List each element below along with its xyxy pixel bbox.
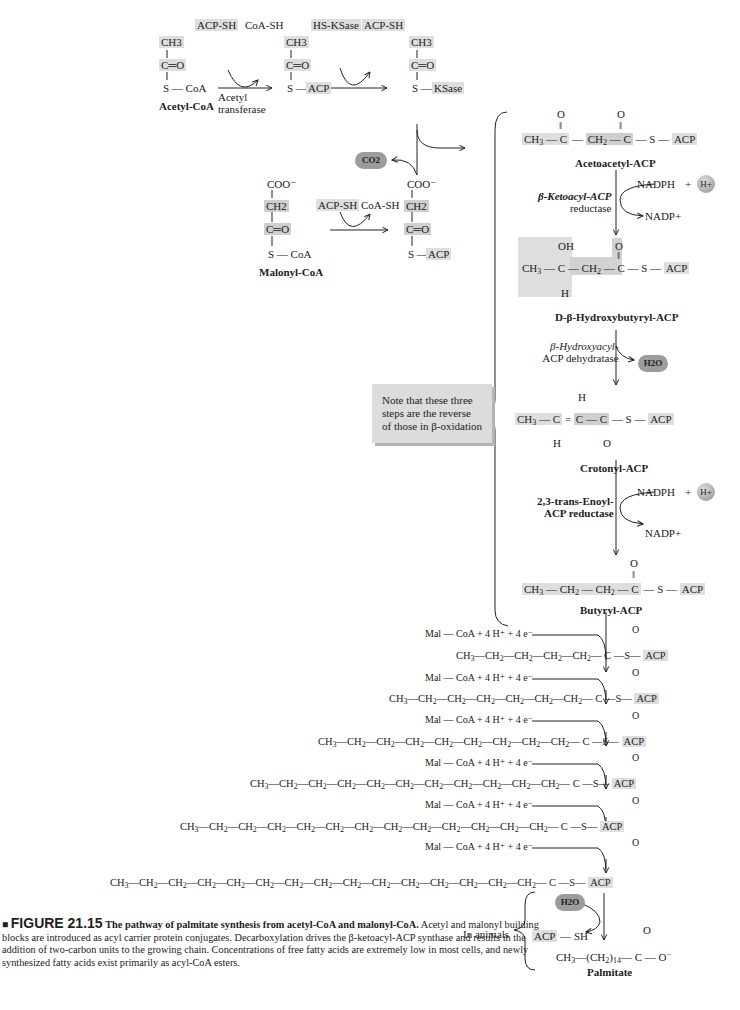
malonyl-reagent: Mal — CoA + 4 H⁺ + 4 e⁻ bbox=[425, 799, 533, 810]
chain-c8: CH3—CH2—CH2—CH2—CH2—CH2—CH2— C —S— ACP bbox=[389, 693, 659, 706]
plus-sign: + bbox=[685, 486, 691, 498]
malonyl-reagent: Mal — CoA + 4 H⁺ + 4 e⁻ bbox=[425, 628, 533, 639]
step2-in: HS-KSase bbox=[311, 19, 361, 31]
malonyl-acp-ch2: CH2 bbox=[404, 200, 429, 212]
oh-label: OH bbox=[558, 240, 574, 252]
acetyl-ksase-ch3: CH3 bbox=[409, 36, 434, 48]
proton-icon: H+ bbox=[697, 175, 715, 193]
acetyl-ksase-s: S — bbox=[412, 82, 432, 94]
crotonyl-formula: CH3 — C = C — C — S — ACP bbox=[515, 413, 674, 427]
butyryl-label: Butyryl-ACP bbox=[580, 604, 642, 616]
acetyl-coa-co: C═O bbox=[159, 59, 186, 71]
figure-caption: ■ FIGURE 21.15 The pathway of palmitate … bbox=[2, 917, 562, 969]
acetoacetyl-formula: CH3 — C — CH2 — C — S — ACP bbox=[522, 133, 697, 147]
o-label: O bbox=[632, 752, 639, 763]
malonyl-acp-s: S — bbox=[408, 248, 428, 260]
palmitate-label: Palmitate bbox=[587, 966, 632, 978]
malonyl-coa-coo: COO⁻ bbox=[267, 178, 296, 191]
acetyl-transferase-label: Acetyl transferase bbox=[218, 91, 266, 115]
step2-out: ACP-SH bbox=[362, 19, 405, 31]
nadph-label: NADPH bbox=[637, 486, 675, 498]
water-molecule-icon: H2O bbox=[638, 355, 668, 372]
enoyl-reductase-label: 2,3-trans-Enoyl- ACP reductase bbox=[537, 495, 614, 519]
o-label: O bbox=[632, 837, 639, 848]
acetyl-ksase-co: C═O bbox=[409, 59, 436, 71]
palmitate-formula: CH3—(CH2)14— C — O− bbox=[556, 950, 671, 965]
crotonyl-label: Crotonyl-ACP bbox=[580, 462, 648, 474]
h-label: H bbox=[553, 437, 561, 449]
figure-title: The pathway of palmitate synthesis from … bbox=[105, 919, 419, 930]
figure-number: FIGURE 21.15 bbox=[11, 915, 103, 931]
bullet-icon: ■ bbox=[2, 919, 11, 930]
plus-sign: + bbox=[685, 178, 691, 190]
malonyl-coa-label: Malonyl-CoA bbox=[259, 266, 323, 278]
acetyl-acp-s: S — bbox=[287, 82, 307, 94]
butyryl-formula: CH3 — CH2 — CH2 — C — S — ACP bbox=[522, 583, 705, 597]
malonyl-reagent: Mal — CoA + 4 H⁺ + 4 e⁻ bbox=[425, 672, 533, 683]
double-bond: ‖ bbox=[632, 568, 635, 580]
hydroxybutyryl-label: D-β-Hydroxybutyryl-ACP bbox=[555, 311, 679, 323]
acetyl-coa-s: S — CoA bbox=[163, 82, 206, 94]
o-label: O bbox=[632, 624, 639, 635]
double-bond: ‖ bbox=[559, 119, 562, 131]
acetyl-coa-ch3: CH3 bbox=[159, 36, 184, 48]
nadp-label: NADP+ bbox=[645, 210, 681, 222]
chain-c10: CH3—CH2—CH2—CH2—CH2—CH2—CH2—CH2—CH2— C —… bbox=[318, 736, 646, 749]
malonyl-acp-coo: COO⁻ bbox=[407, 178, 436, 191]
nadp-label: NADP+ bbox=[645, 527, 681, 539]
double-bond: ‖ bbox=[617, 249, 620, 261]
proton-icon: H+ bbox=[697, 483, 715, 501]
o-label: O bbox=[643, 924, 651, 936]
o-label: O bbox=[632, 710, 639, 721]
malonyl-acp-co: C═O bbox=[404, 223, 431, 235]
malonyl-coa-co: C═O bbox=[264, 223, 291, 235]
malonyl-reagent: Mal — CoA + 4 H⁺ + 4 e⁻ bbox=[425, 757, 533, 768]
malonyl-reagent: Mal — CoA + 4 H⁺ + 4 e⁻ bbox=[425, 714, 533, 725]
acetyl-ksase-ksase: KSase bbox=[432, 82, 464, 94]
malonyl-coa-s: S — CoA bbox=[268, 248, 311, 260]
o-label: O bbox=[632, 667, 639, 678]
acetyl-acp-ch3: CH3 bbox=[284, 36, 309, 48]
chain-c6: CH3—CH2—CH2—CH2—CH2— C —S— ACP bbox=[456, 650, 668, 663]
step1-out: CoA-SH bbox=[245, 19, 284, 31]
acetyl-acp-co: C═O bbox=[284, 59, 311, 71]
water-molecule-icon: H2O bbox=[555, 894, 585, 911]
h-label: H bbox=[578, 391, 586, 403]
step3-out: CoA-SH bbox=[361, 199, 400, 211]
step1-in: ACP-SH bbox=[195, 19, 238, 31]
acetyl-acp-acp: ACP bbox=[306, 82, 331, 94]
chain-c16: CH3—CH2—CH2—CH2—CH2—CH2—CH2—CH2—CH2—CH2—… bbox=[110, 877, 613, 890]
dehydratase-label: β-Hydroxyacyl- ACP dehydratase bbox=[542, 340, 619, 364]
ketoacyl-reductase-label: β-Ketoacyl-ACP reductase bbox=[538, 190, 611, 214]
chain-c12: CH3—CH2—CH2—CH2—CH2—CH2—CH2—CH2—CH2—CH2—… bbox=[250, 778, 636, 791]
acetyl-coa-label: Acetyl-CoA bbox=[159, 100, 214, 112]
chain-c14: CH3—CH2—CH2—CH2—CH2—CH2—CH2—CH2—CH2—CH2—… bbox=[180, 821, 624, 834]
malonyl-acp-acp: ACP bbox=[426, 248, 451, 260]
o-label: O bbox=[632, 795, 639, 806]
acetoacetyl-label: Acetoacetyl-ACP bbox=[575, 157, 656, 169]
step3-in: ACP-SH bbox=[316, 199, 359, 211]
double-bond: ‖ bbox=[619, 119, 622, 131]
nadph-label: NADPH bbox=[637, 178, 675, 190]
beta-oxidation-note: Note that these three steps are the reve… bbox=[372, 384, 492, 443]
co2-molecule-icon: CO2 bbox=[355, 152, 387, 169]
hydroxybutyryl-formula: CH3 — C — CH2 — C — S — ACP bbox=[522, 262, 689, 276]
malonyl-reagent: Mal — CoA + 4 H⁺ + 4 e⁻ bbox=[425, 841, 533, 852]
o-label: O bbox=[603, 437, 611, 449]
h-label: H bbox=[561, 287, 569, 299]
malonyl-coa-ch2: CH2 bbox=[264, 200, 289, 212]
